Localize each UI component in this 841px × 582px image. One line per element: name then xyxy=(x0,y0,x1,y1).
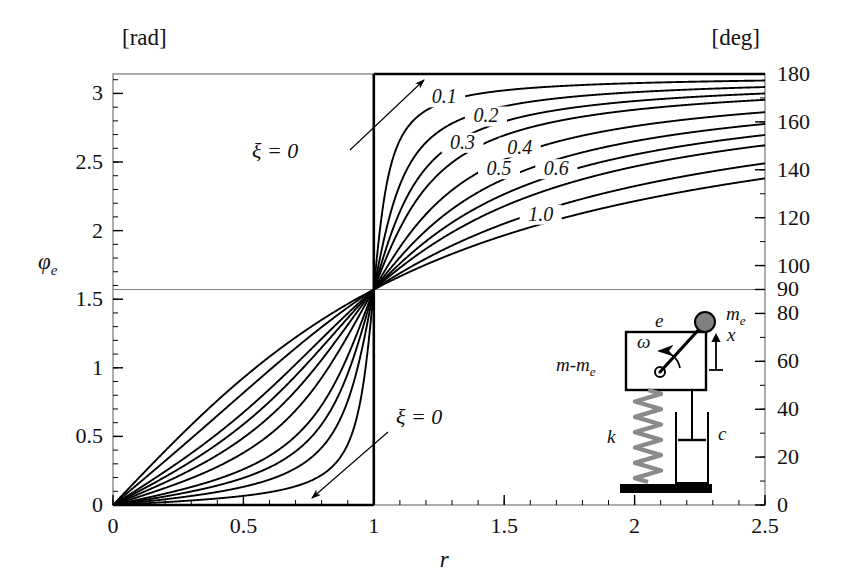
annotation-arrow-bottom xyxy=(312,432,388,498)
y-left-tick-label: 0.5 xyxy=(76,423,104,448)
annotation-arrow-top xyxy=(350,80,424,150)
curve-zeta-1.0 xyxy=(113,178,765,505)
curve-label-0.1: 0.1 xyxy=(432,85,457,107)
y-axis-name-sub: e xyxy=(51,262,58,278)
annotation-zeta-zero-top: ξ = 0 xyxy=(252,138,298,163)
curve-label-0.4: 0.4 xyxy=(507,136,532,158)
inset-eccentricity-label: e xyxy=(655,310,663,331)
y-right-tick-label: 90 xyxy=(777,276,799,301)
inset-schematic xyxy=(620,312,723,493)
inset-x-arrowhead xyxy=(711,333,720,342)
curve-zeta-0.6 xyxy=(113,145,765,505)
curve-label-0.2: 0.2 xyxy=(473,104,498,126)
inset-unbalance-mass xyxy=(695,312,715,332)
x-tick-label: 2.5 xyxy=(751,513,779,538)
inset-mass-label-sub: e xyxy=(590,364,596,379)
x-tick-label: 0 xyxy=(108,513,119,538)
inset-displacement-label: x xyxy=(726,324,736,345)
y-right-tick-label: 60 xyxy=(777,348,799,373)
phase-angle-chart: 0.10.20.30.40.50.61.000.511.522.500.511.… xyxy=(0,0,841,582)
inset-mass-label: m-me xyxy=(556,354,596,379)
y-right-tick-label: 140 xyxy=(777,157,810,182)
right-unit-label: [deg] xyxy=(711,25,760,50)
inset-omega-label: ω xyxy=(637,331,650,352)
y-left-tick-label: 0 xyxy=(92,492,103,517)
curve-label-0.3: 0.3 xyxy=(450,131,475,153)
inset-spring xyxy=(635,390,661,482)
curve-zeta-0.05 xyxy=(113,81,765,505)
x-tick-label: 1.5 xyxy=(490,513,518,538)
annotation-zeta-zero-bottom: ξ = 0 xyxy=(396,404,442,429)
x-tick-label: 1 xyxy=(368,513,379,538)
y-left-tick-label: 1 xyxy=(92,355,103,380)
inset-eccentric-mass-label-sub: e xyxy=(740,313,746,328)
curve-zeta-0.3 xyxy=(113,112,765,505)
x-tick-label: 2 xyxy=(629,513,640,538)
curve-zeta-0.1 xyxy=(113,87,765,505)
y-left-tick-label: 2 xyxy=(92,218,103,243)
curve-zeta-0.5 xyxy=(113,135,765,505)
curve-label-0.5: 0.5 xyxy=(486,157,511,179)
inset-damper-label: c xyxy=(718,423,727,444)
curve-label-0.6: 0.6 xyxy=(544,157,569,179)
y-right-tick-label: 0 xyxy=(777,492,788,517)
y-left-tick-label: 2.5 xyxy=(76,149,104,174)
inset-spring-label: k xyxy=(607,426,616,447)
curve-zeta-0.15 xyxy=(113,93,765,505)
inset-ground-base xyxy=(620,484,712,493)
y-right-tick-label: 160 xyxy=(777,109,810,134)
y-right-tick-label: 100 xyxy=(777,253,810,278)
figure-canvas: 0.10.20.30.40.50.61.000.511.522.500.511.… xyxy=(0,0,841,582)
y-right-tick-label: 20 xyxy=(777,444,799,469)
y-left-tick-label: 1.5 xyxy=(76,286,104,311)
curve-group xyxy=(113,81,765,505)
curve-zeta-0.8 xyxy=(113,163,765,505)
y-right-tick-label: 80 xyxy=(777,300,799,325)
left-unit-label: [rad] xyxy=(122,25,167,50)
x-axis-name: r xyxy=(440,547,450,572)
x-tick-label: 0.5 xyxy=(230,513,258,538)
y-axis-name: φe xyxy=(38,249,58,278)
y-left-tick-label: 3 xyxy=(92,80,103,105)
curve-label-1.0: 1.0 xyxy=(528,203,553,225)
y-right-tick-label: 120 xyxy=(777,205,810,230)
y-right-tick-label: 180 xyxy=(777,61,810,86)
y-right-tick-label: 40 xyxy=(777,396,799,421)
